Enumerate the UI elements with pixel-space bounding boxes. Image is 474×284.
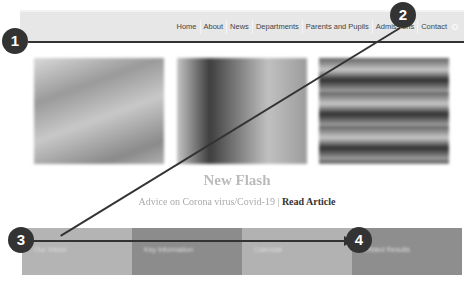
- annotation-badge-1: 1: [2, 28, 28, 54]
- building-photo-2: [177, 58, 307, 164]
- read-article-link[interactable]: Read Article: [282, 196, 336, 207]
- nav-news[interactable]: News: [226, 20, 252, 34]
- tile-key-information[interactable]: Key Information: [132, 228, 242, 275]
- tile-our-vision[interactable]: Our Vision: [22, 228, 132, 275]
- nav-contact[interactable]: Contact: [417, 20, 450, 34]
- nav-home[interactable]: Home: [173, 20, 199, 34]
- annotation-badge-3: 3: [8, 227, 34, 253]
- search-icon[interactable]: [452, 24, 458, 30]
- annotation-badge-2: 2: [390, 2, 416, 28]
- nav-parents-and-pupils[interactable]: Parents and Pupils: [302, 20, 372, 34]
- quick-links: Our Vision Key Information Calendar Ofst…: [22, 228, 462, 275]
- news-headline: New Flash: [0, 172, 474, 189]
- nav-departments[interactable]: Departments: [252, 20, 302, 34]
- annotation-badge-4: 4: [346, 227, 372, 253]
- news-subtitle: Advice on Corona virus/Covid-19 | Read A…: [0, 196, 474, 207]
- tile-calendar[interactable]: Calendar: [242, 228, 352, 275]
- annotation-line-1: [28, 41, 464, 43]
- annotation-line-3-4: [32, 240, 362, 242]
- nav-about[interactable]: About: [200, 20, 227, 34]
- building-photo-1: [34, 58, 164, 164]
- news-text: Advice on Corona virus/Covid-19 |: [139, 196, 280, 207]
- building-photo-3: [319, 58, 449, 164]
